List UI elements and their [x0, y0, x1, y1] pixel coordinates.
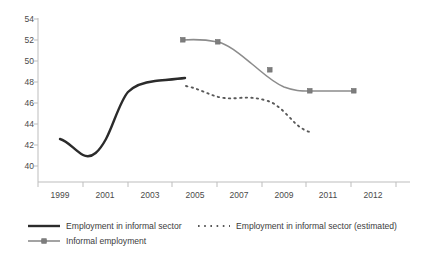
- x-axis-ticks: [38, 182, 396, 187]
- series-informal-employment-line: [183, 40, 354, 91]
- legend-sample-gray-marker: [42, 239, 47, 244]
- legend-label-informal-employment: Informal employment: [66, 236, 146, 246]
- legend-label-employment-informal-sector: Employment in informal sector: [66, 221, 182, 231]
- series-informal-employment-markers: [181, 38, 357, 94]
- series-employment-informal-sector-estimated-line: [186, 86, 310, 132]
- line-chart: 54 52 50 48 46 44 42 40 1999 2001 2003 2…: [0, 0, 432, 259]
- legend-label-employment-informal-sector-estimated: Employment in informal sector (estimated…: [236, 221, 397, 231]
- series-employment-informal-sector-line: [60, 78, 185, 156]
- y-axis-ticks: [34, 19, 38, 166]
